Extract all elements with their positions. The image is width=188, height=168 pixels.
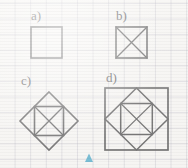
figure-c-diamond-composite xyxy=(17,89,83,155)
figure-b-square-with-diagonals xyxy=(113,24,153,64)
worksheet-page: a) b) c) d) xyxy=(0,0,188,168)
figure-c-diagonal-x xyxy=(35,107,64,136)
figure-b-diagonal-x xyxy=(116,27,147,58)
figure-d-nested-composite xyxy=(102,85,172,155)
figure-label-a: a) xyxy=(31,9,41,22)
figure-label-c: c) xyxy=(21,74,31,87)
figure-a-outer-square xyxy=(31,27,62,58)
figure-d-diagonal-x xyxy=(121,104,153,135)
page-marker-triangle-icon xyxy=(84,153,94,163)
figure-label-b: b) xyxy=(116,9,127,22)
figure-label-d: d) xyxy=(106,71,117,84)
figure-a-plain-square xyxy=(28,24,68,64)
